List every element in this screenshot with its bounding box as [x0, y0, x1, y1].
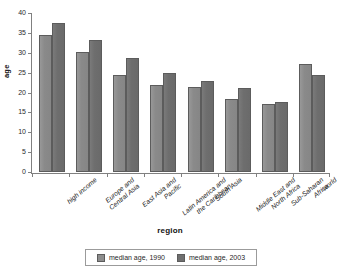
bar-group	[299, 13, 325, 172]
x-axis-category-label-line: world	[321, 176, 338, 192]
bar-group	[150, 13, 176, 172]
y-axis-tick-mark	[28, 33, 32, 34]
bar	[150, 85, 163, 172]
x-axis-category-label-line: high income	[65, 176, 98, 205]
x-axis-category-label: East Asia andPacific	[141, 176, 183, 214]
y-axis-tick-label: 30	[18, 48, 26, 57]
x-axis-title: region	[0, 226, 340, 235]
y-axis-tick-label: 20	[18, 88, 26, 97]
y-axis-tick: 15	[32, 112, 33, 113]
y-axis-tick: 35	[32, 33, 33, 34]
legend-label: median age, 1990	[109, 254, 165, 262]
x-axis-category-label: world	[321, 176, 338, 192]
y-axis-tick: 20	[32, 93, 33, 94]
plot-area: 0510152025303540	[31, 14, 329, 174]
bar	[299, 64, 312, 172]
legend-label: median age, 2003	[189, 254, 245, 262]
y-axis-tick: 40	[32, 13, 33, 14]
bar-group	[188, 13, 214, 172]
y-axis-tick: 10	[32, 132, 33, 133]
y-axis-tick-label: 40	[18, 8, 26, 17]
chart-legend: median age, 1990median age, 2003	[85, 249, 257, 266]
bar	[76, 52, 89, 172]
y-axis-tick-mark	[28, 13, 32, 14]
bar-group	[39, 13, 65, 172]
bar	[238, 88, 251, 172]
y-axis-tick-label: 35	[18, 28, 26, 37]
y-axis-tick-mark	[28, 112, 32, 113]
y-axis-tick-mark	[28, 132, 32, 133]
cropped-title-remnant	[10, 0, 330, 5]
legend-item[interactable]: median age, 2003	[177, 254, 245, 262]
bar	[201, 81, 214, 172]
bar-group	[76, 13, 102, 172]
y-axis-tick: 30	[32, 53, 33, 54]
bar	[52, 23, 65, 172]
bar	[188, 87, 201, 172]
chart-figure: age 0510152025303540 high incomeEurope a…	[0, 0, 340, 276]
y-axis-tick: 25	[32, 73, 33, 74]
bar	[225, 99, 238, 172]
bar-group	[262, 13, 288, 172]
y-axis-tick-label: 15	[18, 107, 26, 116]
legend-swatch	[177, 254, 185, 262]
x-axis-category-label: Latin America andthe Caribbean	[181, 176, 233, 223]
bar	[113, 75, 126, 172]
x-axis-category-label: Europe andCentral Asia	[102, 176, 140, 211]
bar	[262, 104, 275, 172]
y-axis-tick-label: 25	[18, 68, 26, 77]
bar	[89, 40, 102, 172]
y-axis-tick-label: 5	[22, 147, 26, 156]
y-axis-tick-mark	[28, 152, 32, 153]
y-axis-tick-label: 0	[22, 167, 26, 176]
bar	[39, 35, 52, 172]
x-axis-category-labels: high incomeEurope andCentral AsiaEast As…	[31, 176, 331, 222]
bar-group	[113, 13, 139, 172]
bar	[312, 75, 325, 172]
plot-wrapper: 0510152025303540	[31, 14, 329, 174]
legend-item[interactable]: median age, 1990	[97, 254, 165, 262]
bar	[275, 102, 288, 172]
bar	[163, 73, 176, 172]
y-axis-tick-label: 10	[18, 127, 26, 136]
y-axis-tick-mark	[28, 53, 32, 54]
bar	[126, 58, 139, 172]
y-axis-tick: 5	[32, 152, 33, 153]
y-axis-title: age	[2, 64, 11, 78]
y-axis-tick-mark	[28, 93, 32, 94]
y-axis-tick-mark	[28, 73, 32, 74]
bar-group	[225, 13, 251, 172]
legend-swatch	[97, 254, 105, 262]
x-axis-category-label: high income	[65, 176, 98, 205]
